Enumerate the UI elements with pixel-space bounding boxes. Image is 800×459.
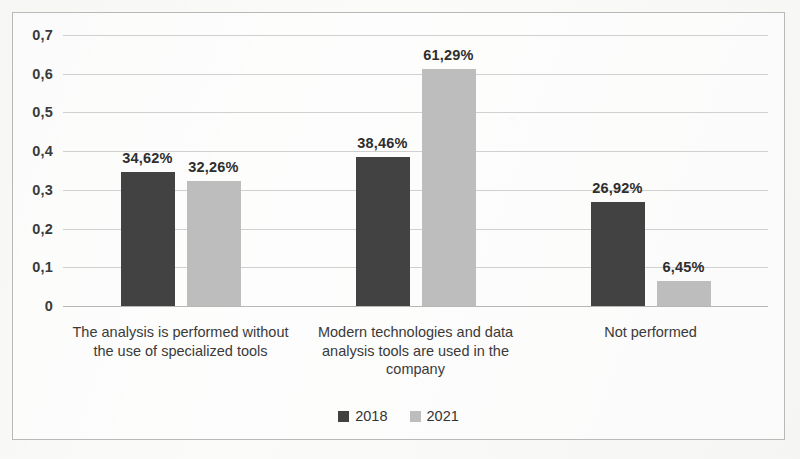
bar-value-label: 26,92% xyxy=(592,180,642,196)
y-axis-tick-label: 0,7 xyxy=(32,27,53,43)
chart-frame: 00,10,20,30,40,50,60,7 34,62%32,26%38,46… xyxy=(12,12,785,440)
y-axis-tick-label: 0,1 xyxy=(32,259,53,275)
legend-swatch-icon xyxy=(410,411,421,422)
bar-2018-group-2[interactable] xyxy=(356,157,410,306)
bar-value-label: 38,46% xyxy=(357,135,407,151)
bar-2021-group-2[interactable] xyxy=(422,69,476,306)
gridline xyxy=(63,112,768,113)
legend-label: 2018 xyxy=(355,408,387,424)
bar-2018-group-1[interactable] xyxy=(121,172,175,306)
gridline xyxy=(63,74,768,75)
legend-swatch-icon xyxy=(338,411,349,422)
gridline xyxy=(63,35,768,36)
bar-2021-group-3[interactable] xyxy=(657,281,711,306)
y-axis-tick-label: 0,4 xyxy=(32,143,53,159)
legend-item-2018[interactable]: 2018 xyxy=(338,408,387,424)
bar-2021-group-1[interactable] xyxy=(187,181,241,306)
bar-2018-group-3[interactable] xyxy=(591,202,645,306)
y-axis-tick-label: 0,3 xyxy=(32,182,53,198)
bar-value-label: 6,45% xyxy=(662,259,704,275)
x-axis-line xyxy=(63,306,768,307)
bar-value-label: 61,29% xyxy=(423,47,473,63)
y-axis-tick-label: 0 xyxy=(45,298,53,314)
chart-legend: 20182021 xyxy=(13,408,784,424)
legend-item-2021[interactable]: 2021 xyxy=(410,408,459,424)
bar-value-label: 32,26% xyxy=(188,159,238,175)
category-label-3: Not performed xyxy=(540,323,761,342)
y-axis-tick-label: 0,6 xyxy=(32,66,53,82)
y-axis-tick-label: 0,5 xyxy=(32,104,53,120)
bar-value-label: 34,62% xyxy=(122,150,172,166)
y-axis-tick-label: 0,2 xyxy=(32,221,53,237)
category-label-2: Modern technologies and data analysis to… xyxy=(305,323,526,379)
category-label-1: The analysis is performed without the us… xyxy=(70,323,291,360)
legend-label: 2021 xyxy=(427,408,459,424)
